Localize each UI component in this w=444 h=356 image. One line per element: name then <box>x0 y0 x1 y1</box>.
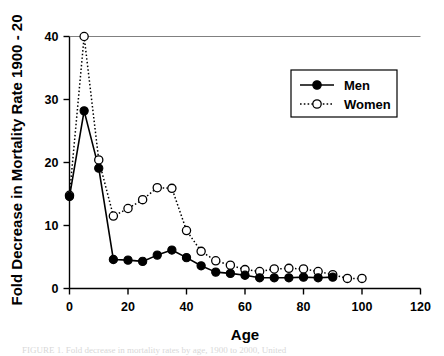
data-point-women <box>153 184 161 192</box>
data-point-men <box>314 274 322 282</box>
data-point-men <box>212 268 220 276</box>
y-tick-label: 10 <box>45 219 59 233</box>
figure-container: 010203040 020406080100120 Age Fold Decre… <box>0 0 444 356</box>
legend-marker-men-filled-circle-icon <box>313 81 321 89</box>
data-point-men <box>80 107 88 115</box>
data-point-men <box>153 251 161 259</box>
x-tick-label: 0 <box>66 300 73 314</box>
data-point-women <box>95 156 103 164</box>
data-point-men <box>329 273 337 281</box>
data-point-women <box>212 257 220 265</box>
data-point-men <box>270 274 278 282</box>
legend[interactable]: Men Women <box>291 70 397 117</box>
x-tick-label: 60 <box>238 300 252 314</box>
data-point-women <box>80 32 88 40</box>
x-tick-label: 80 <box>297 300 311 314</box>
y-tick-label: 30 <box>45 93 59 107</box>
data-point-women <box>139 196 147 204</box>
x-axis-title: Age <box>231 326 259 343</box>
legend-marker-women-open-circle-icon <box>313 100 321 108</box>
data-point-women <box>197 247 205 255</box>
x-tick-label: 100 <box>352 300 373 314</box>
data-point-men <box>182 254 190 262</box>
mortality-line-chart: 010203040 020406080100120 Age Fold Decre… <box>0 0 444 356</box>
data-point-men <box>226 269 234 277</box>
y-axis-title: Fold Decrease in Mortality Rate 1900 - 2… <box>8 15 25 306</box>
data-point-women <box>299 265 307 273</box>
data-point-women <box>358 274 366 282</box>
data-point-women <box>226 261 234 269</box>
data-point-women <box>270 265 278 273</box>
data-point-women <box>343 274 351 282</box>
data-point-men <box>124 256 132 264</box>
figure-caption: FIGURE 1. Fold decrease in mortality rat… <box>22 345 432 356</box>
data-point-women <box>182 226 190 234</box>
y-tick-label: 20 <box>45 156 59 170</box>
data-point-women <box>109 212 117 220</box>
y-tick-label: 0 <box>52 282 59 296</box>
x-tick-label: 20 <box>121 300 135 314</box>
data-point-men <box>95 164 103 172</box>
data-point-men <box>197 262 205 270</box>
data-point-women <box>285 264 293 272</box>
data-point-women <box>124 204 132 212</box>
legend-label-women: Women <box>344 97 391 112</box>
y-tick-label: 40 <box>45 30 59 44</box>
legend-label-men: Men <box>344 78 370 93</box>
data-point-men <box>285 274 293 282</box>
data-point-men <box>109 255 117 263</box>
data-point-men <box>299 273 307 281</box>
data-point-women <box>168 184 176 192</box>
x-tick-label: 40 <box>180 300 194 314</box>
data-point-men <box>65 192 73 200</box>
x-tick-label: 120 <box>410 300 431 314</box>
data-point-men <box>256 274 264 282</box>
data-point-men <box>168 246 176 254</box>
data-point-men <box>139 257 147 265</box>
data-point-men <box>241 271 249 279</box>
